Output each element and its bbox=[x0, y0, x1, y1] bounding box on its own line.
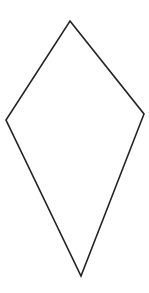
diagram-canvas bbox=[0, 0, 149, 293]
kite-diagram bbox=[0, 0, 149, 293]
kite-shape bbox=[6, 21, 144, 276]
